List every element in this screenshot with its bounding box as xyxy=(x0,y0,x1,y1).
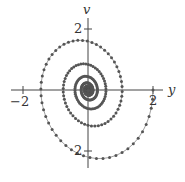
phase-plane-chart: v y −2 2 2 2 xyxy=(0,0,185,182)
x-tick-label-neg2: −2 xyxy=(10,95,29,108)
y-tick-label-2: 2 xyxy=(74,22,82,35)
x-tick-label-2: 2 xyxy=(149,94,157,107)
spiral-trajectory xyxy=(39,39,154,160)
y-axis-label: v xyxy=(83,3,90,16)
x-axis-label: y xyxy=(168,83,175,96)
y-tick-label-neg2: 2 xyxy=(74,144,82,157)
plot-area xyxy=(0,0,185,182)
